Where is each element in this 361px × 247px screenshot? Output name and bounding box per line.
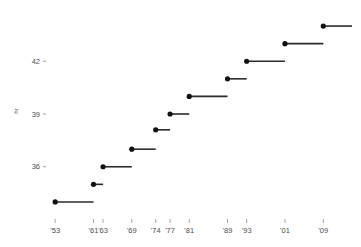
y-axis-ticks: 363942: [32, 57, 46, 172]
x-tick-label: '93: [242, 226, 252, 235]
x-tick-label: '77: [165, 226, 175, 235]
x-tick-label: '69: [127, 226, 137, 235]
x-tick-label: '89: [223, 226, 233, 235]
x-tick-label: '61: [89, 226, 99, 235]
step-segment-marker: [167, 111, 172, 116]
y-tick-label: 36: [32, 162, 40, 171]
step-segment: [129, 147, 156, 152]
step-segment-marker: [91, 182, 96, 187]
step-segment-marker: [187, 94, 192, 99]
step-segment: [225, 76, 247, 81]
y-tick-label: 39: [32, 110, 40, 119]
step-segment: [167, 111, 189, 116]
y-tick-label: 42: [32, 57, 40, 66]
x-axis-ticks: '53'61'63'69'74'77'81'89'93'01'09: [50, 219, 328, 235]
step-segment-marker: [282, 41, 287, 46]
step-segment: [244, 59, 285, 64]
step-segment: [187, 94, 228, 99]
chart-plot-area: 363942 '53'61'63'69'74'77'81'89'93'01'09…: [0, 0, 361, 247]
step-segment-marker: [129, 147, 134, 152]
step-segment-marker: [53, 199, 58, 204]
step-segment-marker: [153, 127, 158, 132]
y-axis-title: hr: [13, 108, 19, 113]
step-segment-marker: [244, 59, 249, 64]
step-segment: [91, 182, 103, 187]
x-tick-label: '74: [151, 226, 161, 235]
x-tick-label: '81: [184, 226, 194, 235]
step-segment: [153, 127, 170, 132]
step-chart: 363942 '53'61'63'69'74'77'81'89'93'01'09…: [0, 0, 361, 247]
step-segment: [53, 199, 94, 204]
y-axis-title-text: hr: [13, 108, 19, 113]
step-segment-marker: [100, 164, 105, 169]
data-series: [53, 23, 352, 204]
x-tick-label: '63: [98, 226, 108, 235]
step-segment: [321, 23, 352, 28]
step-segment-marker: [225, 76, 230, 81]
step-segment-marker: [321, 23, 326, 28]
x-tick-label: '09: [318, 226, 328, 235]
step-segment: [282, 41, 323, 46]
x-tick-label: '01: [280, 226, 290, 235]
step-segment: [100, 164, 131, 169]
x-tick-label: '53: [50, 226, 60, 235]
